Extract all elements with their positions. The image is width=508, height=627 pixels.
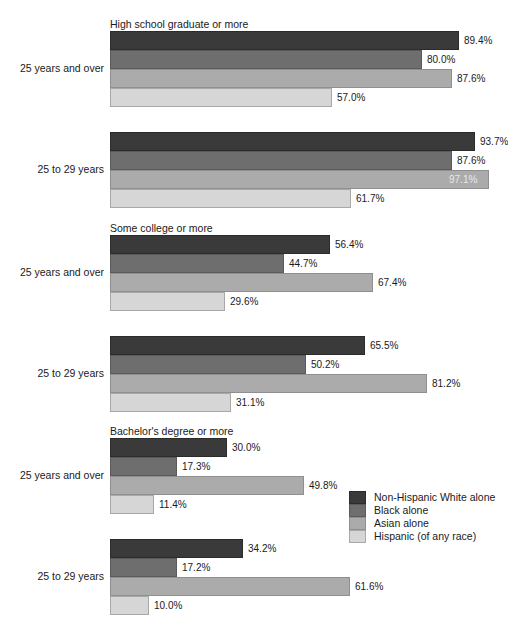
bar-value-label: 80.0%	[427, 53, 455, 66]
legend-swatch-icon	[349, 530, 366, 543]
bar-value-label: 17.3%	[182, 460, 210, 473]
bar-3	[110, 495, 154, 514]
bar-0	[110, 235, 330, 254]
bar-value-label: 65.5%	[370, 339, 398, 352]
panel-title: High school graduate or more	[110, 18, 248, 30]
bar-value-label: 10.0%	[154, 599, 182, 612]
bar-row: 31.1%	[110, 393, 507, 412]
bar-value-label: 44.7%	[289, 257, 317, 270]
chart-legend: Non-Hispanic White aloneBlack aloneAsian…	[349, 491, 501, 543]
bar-row: 93.7%	[110, 132, 507, 151]
bar-value-label: 93.7%	[480, 135, 508, 148]
bar-2	[110, 374, 427, 393]
bar-2	[110, 476, 304, 495]
bar-3	[110, 88, 332, 107]
bars-container: 34.2%17.2%61.6%10.0%	[110, 539, 507, 615]
bar-1	[110, 558, 177, 577]
bar-0	[110, 31, 459, 50]
bars-container: 93.7%87.6%97.1%61.7%	[110, 132, 507, 208]
bar-row: 17.3%	[110, 457, 507, 476]
bar-row: 50.2%	[110, 355, 507, 374]
bar-value-label: 49.8%	[309, 479, 337, 492]
bar-value-label: 57.0%	[337, 91, 365, 104]
group-axis-label: 25 years and over	[0, 63, 104, 74]
bar-3	[110, 596, 149, 615]
legend-label: Asian alone	[374, 517, 429, 530]
bar-value-label: 34.2%	[248, 542, 276, 555]
bar-row: 80.0%	[110, 50, 507, 69]
bar-value-label: 11.4%	[159, 498, 187, 511]
group-axis-label: 25 to 29 years	[0, 368, 104, 379]
bar-value-label: 61.6%	[355, 580, 383, 593]
bar-row: 61.6%	[110, 577, 507, 596]
bar-row: 97.1%	[110, 170, 507, 189]
legend-label: Black alone	[374, 504, 428, 517]
panel-title: Bachelor's degree or more	[110, 425, 233, 437]
bar-0	[110, 438, 227, 457]
bars-container: 65.5%50.2%81.2%31.1%	[110, 336, 507, 412]
bar-0	[110, 132, 475, 151]
bar-value-label: 87.6%	[457, 154, 485, 167]
panel-title: Some college or more	[110, 222, 213, 234]
group-axis-label: 25 years and over	[0, 267, 104, 278]
bar-row: 17.2%	[110, 558, 507, 577]
bar-value-label: 31.1%	[236, 396, 264, 409]
bar-value-label: 81.2%	[432, 377, 460, 390]
bar-row: 87.6%	[110, 151, 507, 170]
bar-2	[110, 273, 373, 292]
legend-item[interactable]: Non-Hispanic White alone	[349, 491, 501, 504]
bar-row: 57.0%	[110, 88, 507, 107]
legend-swatch-icon	[349, 504, 366, 517]
bar-1	[110, 457, 177, 476]
bar-2	[110, 577, 350, 596]
bar-value-label: 29.6%	[230, 295, 258, 308]
legend-item[interactable]: Hispanic (of any race)	[349, 530, 501, 543]
bar-3	[110, 292, 225, 311]
bar-2	[110, 170, 489, 189]
bar-value-label: 30.0%	[232, 441, 260, 454]
legend-item[interactable]: Black alone	[349, 504, 501, 517]
bar-2	[110, 69, 452, 88]
bar-value-label: 87.6%	[457, 72, 485, 85]
bar-row: 30.0%	[110, 438, 507, 457]
bar-row: 61.7%	[110, 189, 507, 208]
bar-value-label: 97.1%	[449, 173, 477, 186]
bar-3	[110, 393, 231, 412]
bar-0	[110, 336, 365, 355]
legend-label: Hispanic (of any race)	[374, 530, 476, 543]
bars-container: 56.4%44.7%67.4%29.6%	[110, 235, 507, 311]
bar-row: 67.4%	[110, 273, 507, 292]
bar-value-label: 50.2%	[311, 358, 339, 371]
bar-3	[110, 189, 351, 208]
bar-value-label: 67.4%	[378, 276, 406, 289]
bar-1	[110, 151, 452, 170]
bar-row: 87.6%	[110, 69, 507, 88]
bar-1	[110, 254, 284, 273]
legend-item[interactable]: Asian alone	[349, 517, 501, 530]
group-axis-label: 25 years and over	[0, 470, 104, 481]
legend-swatch-icon	[349, 491, 366, 504]
bar-row: 44.7%	[110, 254, 507, 273]
bar-value-label: 61.7%	[356, 192, 384, 205]
bar-value-label: 17.2%	[182, 561, 210, 574]
bar-row: 89.4%	[110, 31, 507, 50]
bar-1	[110, 50, 422, 69]
group-axis-label: 25 to 29 years	[0, 164, 104, 175]
bar-value-label: 89.4%	[464, 34, 492, 47]
bar-row: 81.2%	[110, 374, 507, 393]
bar-row: 56.4%	[110, 235, 507, 254]
bar-1	[110, 355, 306, 374]
bar-row: 65.5%	[110, 336, 507, 355]
bar-row: 10.0%	[110, 596, 507, 615]
legend-label: Non-Hispanic White alone	[374, 491, 495, 504]
legend-swatch-icon	[349, 517, 366, 530]
bar-row: 29.6%	[110, 292, 507, 311]
bar-0	[110, 539, 243, 558]
bar-value-label: 56.4%	[335, 238, 363, 251]
group-axis-label: 25 to 29 years	[0, 571, 104, 582]
bars-container: 89.4%80.0%87.6%57.0%	[110, 31, 507, 107]
